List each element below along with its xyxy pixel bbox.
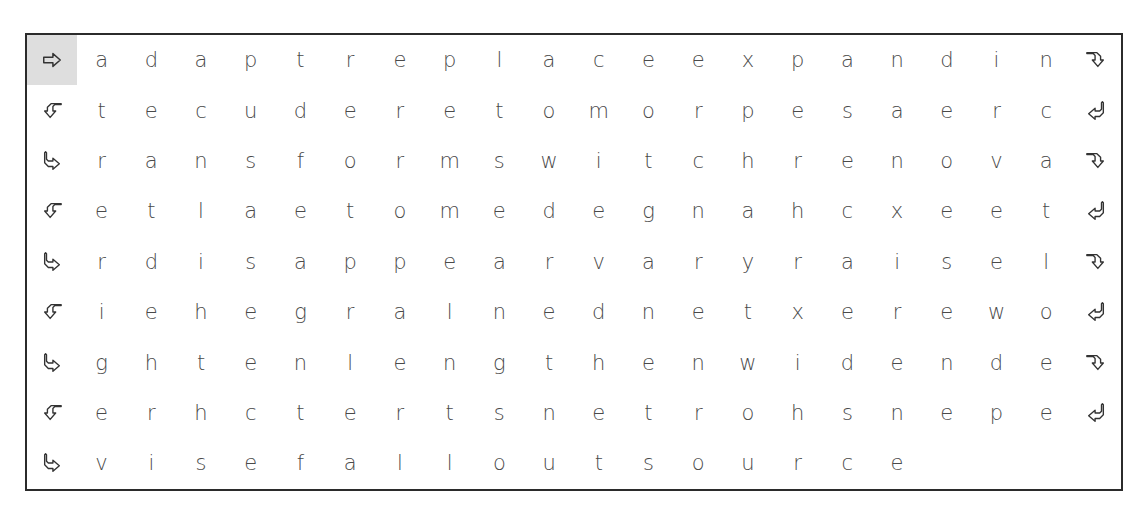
letter-cell[interactable]: i <box>126 438 176 488</box>
letter-cell[interactable]: t <box>126 186 176 236</box>
letter-cell[interactable]: p <box>972 388 1022 438</box>
letter-cell[interactable]: d <box>574 287 624 337</box>
letter-cell[interactable]: d <box>524 186 574 236</box>
letter-cell[interactable]: a <box>524 35 574 85</box>
letter-cell[interactable]: r <box>375 85 425 135</box>
letter-cell[interactable]: n <box>872 136 922 186</box>
letter-cell[interactable]: a <box>474 237 524 287</box>
letter-cell[interactable]: n <box>1021 35 1071 85</box>
letter-cell[interactable]: t <box>624 136 674 186</box>
letter-cell[interactable]: i <box>176 237 226 287</box>
letter-cell[interactable]: n <box>524 388 574 438</box>
letter-cell[interactable]: e <box>425 237 475 287</box>
letter-cell[interactable]: r <box>972 85 1022 135</box>
letter-cell[interactable]: e <box>276 186 326 236</box>
letter-cell[interactable]: o <box>1021 287 1071 337</box>
letter-cell[interactable]: a <box>624 237 674 287</box>
letter-cell[interactable]: a <box>226 186 276 236</box>
letter-cell[interactable]: w <box>723 337 773 387</box>
letter-cell[interactable]: s <box>226 136 276 186</box>
letter-cell[interactable]: d <box>823 337 873 387</box>
letter-cell[interactable]: a <box>325 438 375 488</box>
letter-cell[interactable]: n <box>872 388 922 438</box>
letter-cell[interactable]: v <box>972 136 1022 186</box>
letter-cell[interactable]: h <box>126 337 176 387</box>
letter-cell[interactable]: y <box>723 237 773 287</box>
letter-cell[interactable]: i <box>773 337 823 387</box>
letter-cell[interactable]: p <box>375 237 425 287</box>
letter-cell[interactable]: d <box>922 35 972 85</box>
letter-cell[interactable]: a <box>823 237 873 287</box>
letter-cell[interactable]: t <box>723 287 773 337</box>
letter-cell[interactable]: m <box>574 85 624 135</box>
letter-cell[interactable]: n <box>673 337 723 387</box>
letter-cell[interactable]: l <box>375 438 425 488</box>
letter-cell[interactable] <box>1021 438 1071 488</box>
letter-cell[interactable]: d <box>276 85 326 135</box>
letter-cell[interactable]: s <box>624 438 674 488</box>
letter-cell[interactable]: e <box>673 287 723 337</box>
letter-cell[interactable]: a <box>823 35 873 85</box>
letter-cell[interactable]: t <box>524 337 574 387</box>
letter-cell[interactable]: h <box>176 388 226 438</box>
letter-cell[interactable]: x <box>773 287 823 337</box>
letter-cell[interactable]: t <box>1021 186 1071 236</box>
letter-cell[interactable]: r <box>673 85 723 135</box>
letter-cell[interactable]: e <box>126 85 176 135</box>
letter-cell[interactable]: s <box>823 388 873 438</box>
letter-cell[interactable]: a <box>276 237 326 287</box>
letter-cell[interactable]: o <box>524 85 574 135</box>
letter-cell[interactable]: a <box>126 136 176 186</box>
letter-cell[interactable]: e <box>126 287 176 337</box>
letter-cell[interactable]: e <box>624 35 674 85</box>
letter-cell[interactable]: h <box>773 388 823 438</box>
letter-cell[interactable]: c <box>176 85 226 135</box>
letter-cell[interactable]: c <box>574 35 624 85</box>
letter-cell[interactable]: c <box>673 136 723 186</box>
letter-cell[interactable]: h <box>574 337 624 387</box>
letter-cell[interactable]: l <box>425 438 475 488</box>
letter-cell[interactable]: e <box>1021 337 1071 387</box>
letter-cell[interactable]: o <box>922 136 972 186</box>
letter-cell[interactable]: n <box>922 337 972 387</box>
letter-cell[interactable]: r <box>524 237 574 287</box>
letter-cell[interactable]: n <box>872 35 922 85</box>
letter-cell[interactable]: a <box>872 85 922 135</box>
letter-cell[interactable]: i <box>574 136 624 186</box>
letter-cell[interactable]: r <box>325 35 375 85</box>
letter-cell[interactable]: e <box>972 186 1022 236</box>
letter-cell[interactable]: p <box>773 35 823 85</box>
letter-cell[interactable]: t <box>325 186 375 236</box>
letter-cell[interactable]: n <box>425 337 475 387</box>
letter-cell[interactable]: e <box>1021 388 1071 438</box>
letter-cell[interactable]: e <box>624 337 674 387</box>
letter-cell[interactable]: e <box>226 337 276 387</box>
letter-cell[interactable]: a <box>176 35 226 85</box>
letter-cell[interactable]: s <box>922 237 972 287</box>
letter-cell[interactable]: t <box>474 85 524 135</box>
letter-cell[interactable]: r <box>872 287 922 337</box>
letter-cell[interactable]: s <box>226 237 276 287</box>
letter-cell[interactable]: e <box>325 85 375 135</box>
letter-cell[interactable]: p <box>425 35 475 85</box>
letter-cell[interactable]: l <box>1021 237 1071 287</box>
letter-cell[interactable]: r <box>77 136 127 186</box>
letter-cell[interactable]: n <box>474 287 524 337</box>
letter-cell[interactable]: e <box>872 337 922 387</box>
letter-cell[interactable]: i <box>872 237 922 287</box>
letter-cell[interactable]: m <box>425 136 475 186</box>
letter-cell[interactable]: s <box>823 85 873 135</box>
letter-cell[interactable]: e <box>77 186 127 236</box>
letter-cell[interactable]: e <box>226 438 276 488</box>
letter-cell[interactable]: c <box>823 186 873 236</box>
letter-cell[interactable]: u <box>524 438 574 488</box>
letter-cell[interactable]: r <box>325 287 375 337</box>
letter-cell[interactable]: e <box>375 35 425 85</box>
letter-cell[interactable]: g <box>276 287 326 337</box>
letter-cell[interactable]: p <box>723 85 773 135</box>
letter-cell[interactable]: e <box>972 237 1022 287</box>
letter-cell[interactable]: t <box>425 388 475 438</box>
letter-cell[interactable]: e <box>872 438 922 488</box>
letter-cell[interactable]: e <box>574 186 624 236</box>
letter-cell[interactable]: s <box>474 388 524 438</box>
